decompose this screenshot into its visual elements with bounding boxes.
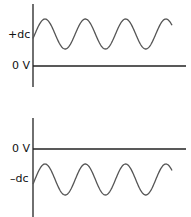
top-dc-label: +dc [8,29,30,41]
bottom-zero-label: 0 V [12,143,30,155]
top-zero-label: 0 V [12,60,30,72]
bottom-dc-label: –dc [10,173,29,185]
bottom-sine-wave [33,164,172,195]
bottom-graph [33,118,186,217]
top-graph [33,4,186,87]
top-sine-wave [33,19,172,49]
